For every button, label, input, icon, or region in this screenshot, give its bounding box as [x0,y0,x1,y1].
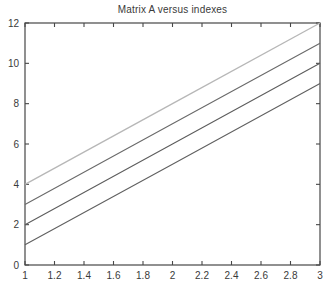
series-line-1 [25,84,320,245]
y-tick-label: 8 [13,98,19,109]
y-tick-label: 0 [13,260,19,271]
x-tick-label: 1.6 [107,270,121,281]
x-tick-label: 1.2 [48,270,62,281]
x-tick-label: 1 [22,270,28,281]
y-tick-label: 2 [13,219,19,230]
y-tick-label: 6 [13,139,19,150]
x-tick-label: 3 [317,270,323,281]
y-tick-label: 4 [13,179,19,190]
plot-canvas: 11.21.41.61.822.22.42.62.83024681012 [0,0,334,294]
series-line-4 [25,23,320,184]
x-tick-label: 2.6 [254,270,268,281]
series-line-3 [25,43,320,204]
x-tick-label: 2.2 [195,270,209,281]
x-tick-label: 1.4 [77,270,91,281]
figure-window: Matrix A versus indexes 11.21.41.61.822.… [0,0,334,294]
y-tick-label: 10 [8,58,20,69]
series-line-2 [25,63,320,224]
x-tick-label: 2 [170,270,176,281]
y-tick-label: 12 [8,18,20,29]
x-tick-label: 2.8 [284,270,298,281]
x-tick-label: 1.8 [136,270,150,281]
x-tick-label: 2.4 [225,270,239,281]
